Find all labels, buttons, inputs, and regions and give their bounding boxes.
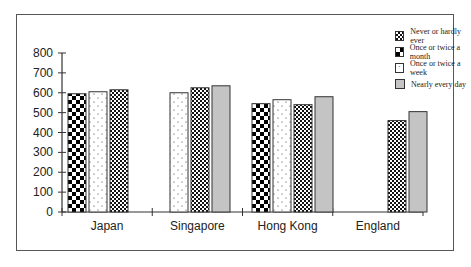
bar: [252, 104, 270, 212]
chart-legend: Never or hardly ever Once or twice a mon…: [395, 28, 471, 92]
legend-item-week: ·Once or twice a week: [395, 60, 471, 76]
y-tick-label: 100: [33, 185, 53, 199]
bar: [212, 86, 230, 212]
y-tick-label: 300: [33, 145, 53, 159]
y-tick-label: 0: [46, 205, 53, 219]
y-tick-label: 700: [33, 66, 53, 80]
bar: [89, 92, 107, 212]
x-category-label: Japan: [91, 219, 124, 233]
x-category-label: England: [356, 219, 400, 233]
large-check-swatch-icon: [395, 47, 404, 57]
bar: [170, 93, 188, 212]
y-tick-label: 800: [33, 46, 53, 60]
bar: [191, 88, 209, 212]
bar: [273, 100, 291, 212]
y-tick-label: 500: [33, 106, 53, 120]
x-category-label: Singapore: [170, 219, 225, 233]
bar: [110, 90, 128, 212]
y-tick-label: 200: [33, 165, 53, 179]
legend-item-never: Never or hardly ever: [395, 28, 471, 44]
bar: [388, 121, 406, 212]
bar: [315, 97, 333, 212]
fine-check-swatch-icon: [395, 31, 404, 41]
dots-swatch-icon: ·: [395, 63, 404, 73]
bar: [294, 105, 312, 212]
x-category-label: Hong Kong: [258, 219, 318, 233]
bar: [68, 94, 86, 212]
y-tick-label: 600: [33, 86, 53, 100]
bar: [409, 112, 427, 212]
y-tick-label: 400: [33, 126, 53, 140]
gray-swatch-icon: [395, 79, 405, 89]
legend-item-month: Once or twice a month: [395, 44, 471, 60]
legend-item-daily: Nearly every day: [395, 76, 471, 92]
